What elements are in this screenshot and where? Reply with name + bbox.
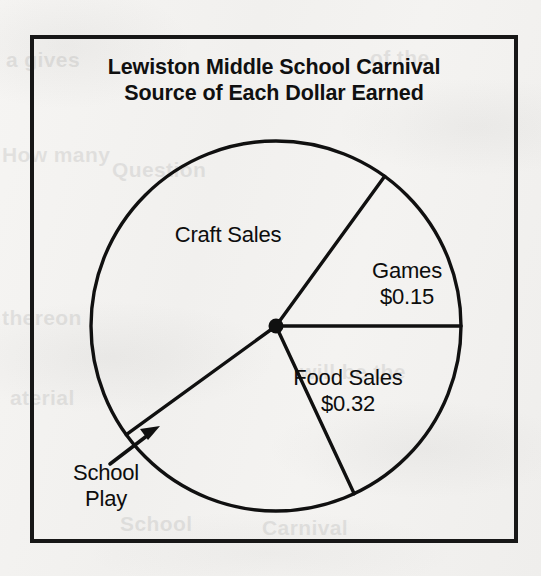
slice-label-food-sales-value: $0.32 bbox=[258, 391, 438, 417]
slice-label-games: Games $0.15 bbox=[332, 258, 482, 310]
pie-center-point bbox=[269, 319, 284, 334]
slice-label-games-value: $0.15 bbox=[332, 284, 482, 310]
scanned-worksheet-page: a gives of the How many Question thereon… bbox=[0, 0, 541, 576]
slice-label-games-name: Games bbox=[332, 258, 482, 284]
slice-label-school-play-name-line-1: School bbox=[36, 460, 176, 486]
slice-label-school-play-name-line-2: Play bbox=[36, 486, 176, 512]
slice-divider-craft-school-play bbox=[126, 326, 276, 435]
slice-label-craft-sales-name: Craft Sales bbox=[128, 222, 328, 248]
slice-label-food-sales-name: Food Sales bbox=[258, 365, 438, 391]
slice-label-school-play: School Play bbox=[36, 460, 176, 512]
slice-label-craft-sales: Craft Sales bbox=[128, 222, 328, 248]
slice-label-food-sales: Food Sales $0.32 bbox=[258, 365, 438, 417]
school-play-leader-arrow bbox=[110, 426, 160, 464]
